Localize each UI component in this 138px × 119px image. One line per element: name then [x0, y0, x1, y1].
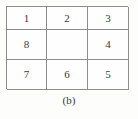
- grid-cell-r2c1[interactable]: 8: [7, 30, 47, 60]
- figure-panel: 1 2 3 8 4 7 6 5 (b): [0, 0, 138, 119]
- grid-cell-r1c2[interactable]: 2: [47, 7, 88, 30]
- figure-caption: (b): [0, 95, 138, 106]
- grid-cell-r2c3[interactable]: 4: [88, 30, 129, 60]
- grid-cell-r1c1[interactable]: 1: [7, 7, 47, 30]
- grid-cell-r3c3[interactable]: 5: [88, 60, 129, 90]
- grid-cell-r1c3[interactable]: 3: [88, 7, 129, 30]
- grid-cell-r3c1[interactable]: 7: [7, 60, 47, 90]
- puzzle-grid: 1 2 3 8 4 7 6 5: [6, 6, 128, 89]
- grid-cell-r3c2[interactable]: 6: [47, 60, 88, 90]
- grid-cell-r2c2-blank[interactable]: [47, 30, 88, 60]
